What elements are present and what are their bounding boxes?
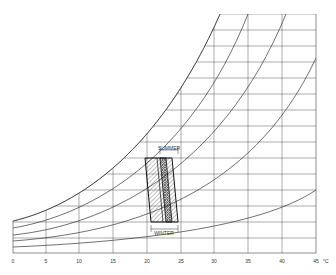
tick-label: 30 [211, 258, 217, 264]
tick-label: 25 [178, 258, 184, 264]
unit-label: °C [323, 258, 329, 264]
winter-label: WINTER [154, 230, 174, 236]
x-axis-ticks: 0 5 10 15 20 25 30 35 40 45 °C [12, 258, 329, 264]
tick-label: 45 [313, 258, 319, 264]
summer-label: SUMMER [158, 145, 181, 151]
psychrometric-chart: SUMMER WINTER 0 5 10 15 20 25 30 35 40 4… [0, 0, 336, 275]
tick-label: 10 [76, 258, 82, 264]
tick-label: 15 [110, 258, 116, 264]
comfort-zone [145, 158, 178, 222]
tick-label: 40 [279, 258, 285, 264]
tick-label: 5 [45, 258, 48, 264]
tick-label: 20 [144, 258, 150, 264]
tick-label: 35 [245, 258, 251, 264]
tick-label: 0 [12, 258, 15, 264]
